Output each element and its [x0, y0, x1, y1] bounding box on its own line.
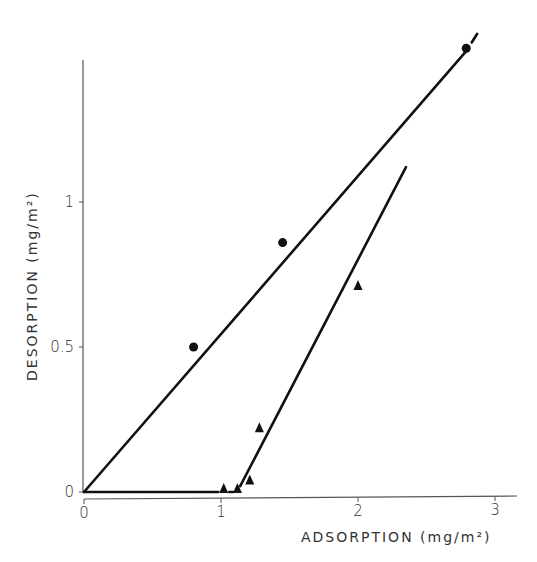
triangle-marker — [354, 280, 363, 290]
x-axis-ticks: 0123 — [79, 496, 500, 522]
circle-marker — [462, 44, 471, 53]
y-tick-label: 0 — [64, 483, 74, 501]
triangle-marker — [219, 483, 228, 493]
x-tick-label: 2 — [353, 502, 363, 520]
circle-fit-line-dash — [472, 34, 477, 43]
circle-fit-line — [84, 51, 466, 492]
x-axis-line — [84, 496, 517, 499]
data-markers — [189, 44, 471, 493]
triangle-marker — [255, 422, 264, 432]
fit-lines — [84, 34, 477, 492]
x-tick-label: 0 — [79, 504, 89, 522]
circle-marker — [278, 238, 287, 247]
y-axis-label: DESORPTION (mg/m²) — [24, 191, 40, 381]
x-tick-label: 1 — [216, 503, 226, 521]
circle-marker — [189, 343, 198, 352]
x-axis-label: ADSORPTION (mg/m²) — [301, 529, 491, 545]
y-tick-label: 0.5 — [50, 338, 74, 356]
y-tick-label: 1 — [64, 193, 74, 211]
chart-plot: 00.51 0123 ADSORPTION (mg/m²) DESORPTION… — [0, 0, 537, 562]
x-tick-label: 3 — [490, 501, 500, 519]
y-axis-ticks: 00.51 — [50, 193, 83, 501]
